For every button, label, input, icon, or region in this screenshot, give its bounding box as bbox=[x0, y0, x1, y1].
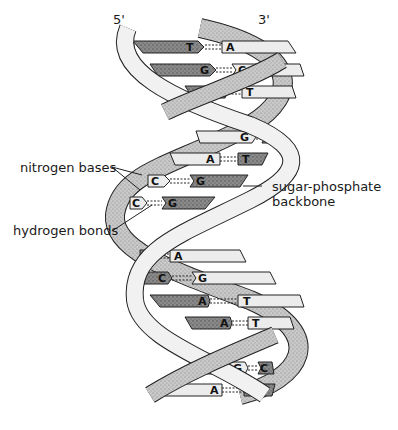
svg-text:G: G bbox=[200, 64, 209, 77]
svg-text:A: A bbox=[226, 41, 235, 54]
svg-text:A: A bbox=[220, 317, 229, 330]
svg-text:G: G bbox=[196, 175, 205, 188]
base-pair-5: A T bbox=[170, 153, 268, 166]
svg-text:A: A bbox=[174, 250, 183, 263]
nitrogen-bases-label: nitrogen bases bbox=[20, 160, 116, 175]
sugar-phosphate-backbone-label-line2: backbone bbox=[272, 194, 335, 209]
base-pair-7: C G bbox=[130, 197, 215, 210]
svg-text:T: T bbox=[243, 295, 251, 308]
svg-text:A: A bbox=[210, 384, 219, 397]
sugar-phosphate-backbone-label-line1: sugar-phosphate bbox=[272, 179, 381, 194]
svg-text:T: T bbox=[252, 317, 260, 330]
three-prime-end-label: 3' bbox=[258, 12, 270, 27]
dna-helix-drawing: T A G C A T G C bbox=[0, 0, 398, 430]
svg-text:G: G bbox=[198, 272, 207, 285]
svg-text:C: C bbox=[151, 175, 159, 188]
svg-text:G: G bbox=[168, 197, 177, 210]
base-pair-9: C G bbox=[130, 272, 276, 285]
svg-text:T: T bbox=[186, 41, 194, 54]
five-prime-end-label: 5' bbox=[113, 12, 125, 27]
svg-text:C: C bbox=[132, 197, 140, 210]
svg-text:T: T bbox=[242, 153, 250, 166]
svg-text:A: A bbox=[198, 295, 207, 308]
svg-text:C: C bbox=[158, 272, 166, 285]
svg-text:C: C bbox=[260, 362, 268, 375]
base-pair-11: A T bbox=[185, 317, 294, 330]
svg-text:A: A bbox=[206, 153, 215, 166]
svg-text:T: T bbox=[246, 86, 254, 99]
base-pair-1: T A bbox=[133, 41, 296, 54]
base-pair-6: C G bbox=[148, 175, 248, 188]
hydrogen-bonds-label: hydrogen bonds bbox=[13, 223, 118, 238]
